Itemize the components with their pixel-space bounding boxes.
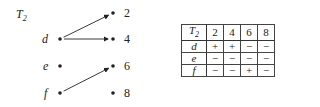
matrix-col-header: 6: [241, 25, 258, 41]
corner-subscript: 2: [195, 30, 199, 39]
matrix-col-header: 2: [207, 25, 224, 41]
matrix-header-row: T2 2 4 6 8: [182, 25, 275, 41]
matrix-cell: −: [258, 53, 275, 65]
matrix-cell: −: [241, 41, 258, 53]
matrix-row: d + + − −: [182, 41, 275, 53]
domain-dot-f: [58, 91, 62, 95]
matrix-row: f − − + −: [182, 65, 275, 77]
codomain-label-8: 8: [124, 87, 130, 99]
relation-matrix: T2 2 4 6 8 d + + − − e − − − − f − − + −: [181, 24, 275, 77]
codomain-dot-6: [111, 64, 115, 68]
domain-label-f: f: [44, 87, 47, 99]
domain-dot-d: [58, 37, 62, 41]
codomain-dot-8: [111, 91, 115, 95]
domain-dot-e: [58, 64, 62, 68]
matrix-cell: −: [258, 65, 275, 77]
matrix-corner: T2: [182, 25, 207, 41]
matrix-row: e − − − −: [182, 53, 275, 65]
matrix-cell: −: [224, 53, 241, 65]
matrix-cell: −: [258, 41, 275, 53]
matrix-col-header: 4: [224, 25, 241, 41]
codomain-label-2: 2: [124, 7, 130, 19]
domain-label-e: e: [43, 60, 48, 72]
matrix-row-header: f: [182, 65, 207, 77]
matrix-cell: +: [241, 65, 258, 77]
matrix-cell: −: [224, 65, 241, 77]
matrix-cell: +: [207, 41, 224, 53]
matrix-col-header: 8: [258, 25, 275, 41]
matrix-row-header: e: [182, 53, 207, 65]
codomain-label-4: 4: [124, 33, 130, 45]
arrow-f-to-6: [64, 68, 109, 91]
matrix-cell: +: [224, 41, 241, 53]
matrix-cell: −: [207, 53, 224, 65]
matrix-cell: −: [207, 65, 224, 77]
codomain-dot-4: [111, 37, 115, 41]
domain-label-d: d: [42, 33, 48, 45]
codomain-label-6: 6: [124, 60, 130, 72]
matrix-cell: −: [241, 53, 258, 65]
codomain-dot-2: [111, 11, 115, 15]
matrix-row-header: d: [182, 41, 207, 53]
arrow-d-to-2: [64, 15, 109, 37]
